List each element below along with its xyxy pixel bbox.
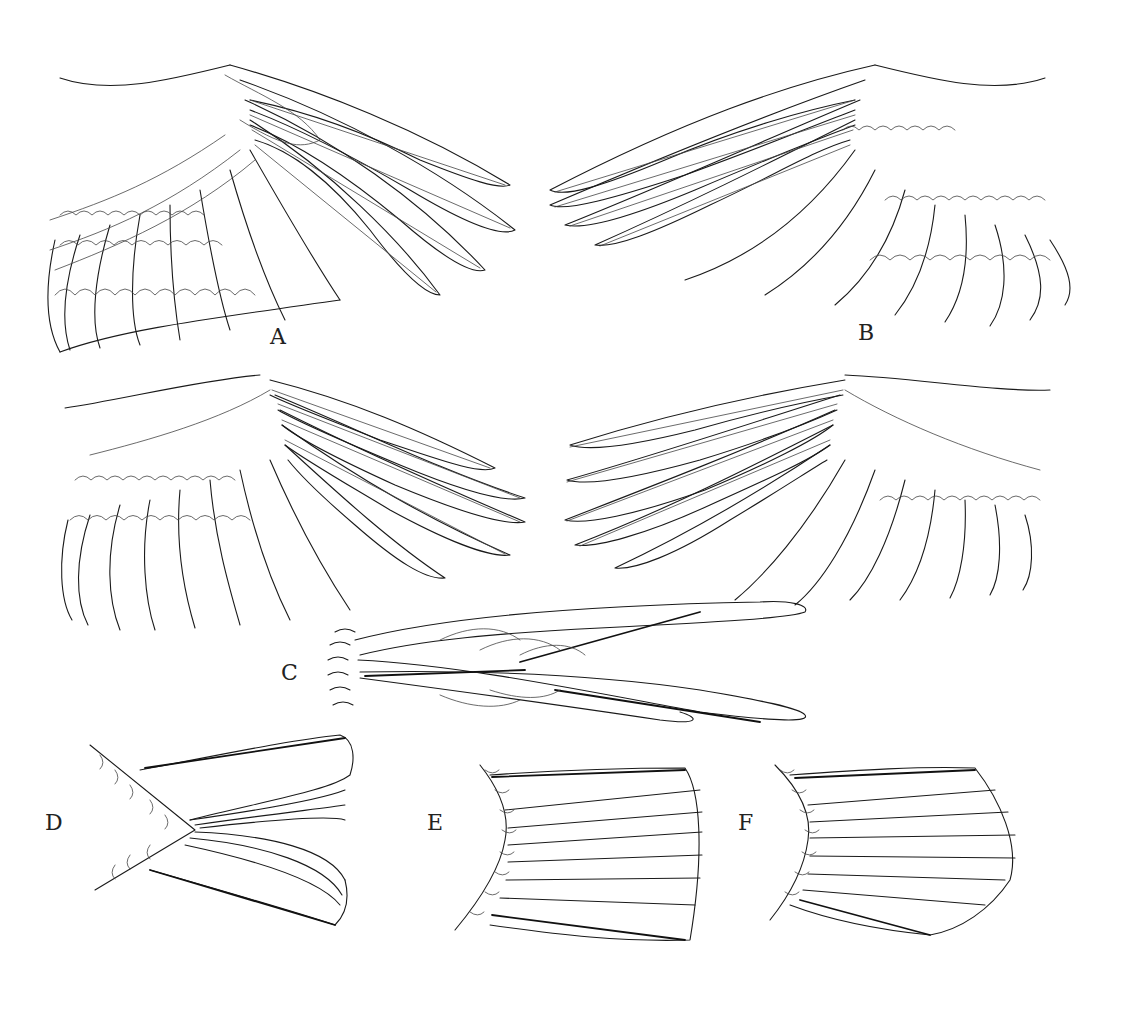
wing-b xyxy=(550,65,1070,326)
tail-d xyxy=(90,735,353,925)
label-d: D xyxy=(45,810,63,835)
label-a: A xyxy=(270,324,286,349)
label-f: F xyxy=(738,810,753,835)
wing-lower-left xyxy=(62,375,525,630)
wing-tail-illustration xyxy=(0,0,1135,1018)
wing-a xyxy=(48,65,515,352)
illustration-canvas: A B C D E F xyxy=(0,0,1135,1018)
tail-c xyxy=(328,602,806,722)
wing-lower-right xyxy=(565,375,1050,605)
label-e: E xyxy=(427,810,443,835)
label-b: B xyxy=(858,320,874,345)
tail-f xyxy=(770,765,1015,935)
tail-e xyxy=(455,765,702,940)
label-c: C xyxy=(281,660,298,685)
